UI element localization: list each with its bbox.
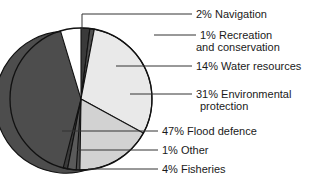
pie-chart-figure: 2% Navigation 1% Recreation and conserva…	[0, 0, 311, 190]
pie-label-recreation-line2: and conservation	[196, 41, 280, 54]
pie-label-fisheries: 4% Fisheries	[162, 163, 226, 176]
pie-label-water-resources: 14% Water resources	[196, 60, 301, 73]
pie-label-other: 1% Other	[162, 144, 208, 157]
pie-label-environmental-protection-line1: 31% Environmental	[196, 88, 291, 101]
pie-label-navigation: 2% Navigation	[196, 8, 267, 21]
pie-label-recreation-line1: 1% Recreation	[200, 29, 272, 42]
pie-label-environmental-protection-line2: protection	[200, 100, 248, 113]
leader-line-navigation	[82, 14, 192, 30]
pie-label-flood-defence: 47% Flood defence	[162, 125, 257, 138]
